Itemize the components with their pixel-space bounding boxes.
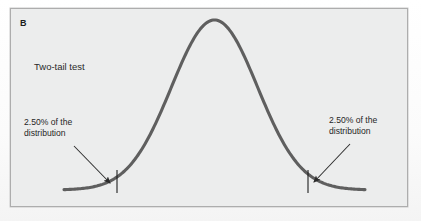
test-type-label: Two-tail test <box>34 61 85 72</box>
right-tail-annotation-line-2: distribution <box>329 126 377 137</box>
left-tail-annotation-line-1: 2.50% of the <box>24 117 72 128</box>
figure-panel-frame <box>10 8 408 207</box>
left-tail-annotation: 2.50% of the distribution <box>24 117 72 140</box>
figure-container: B Two-tail test 2.50% of the distributio… <box>0 0 421 221</box>
left-tail-annotation-line-2: distribution <box>24 128 72 139</box>
panel-label: B <box>20 19 27 28</box>
right-tail-annotation-line-1: 2.50% of the <box>329 115 377 126</box>
right-tail-annotation: 2.50% of the distribution <box>329 115 377 138</box>
